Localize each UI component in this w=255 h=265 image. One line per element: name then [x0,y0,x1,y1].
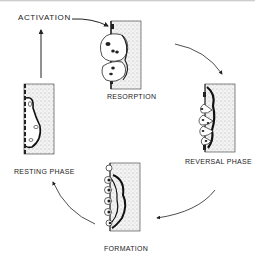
label-reversal-phase: REVERSAL PHASE [185,158,252,165]
label-formation: FORMATION [104,245,148,252]
formation-to-resting-arrow [53,182,95,224]
resorption-to-reversal-arrow [175,44,222,74]
reversal-block [199,84,235,152]
reversal-to-formation-arrow [157,190,215,218]
bone-remodeling-diagram [0,0,255,265]
resorption-block [100,21,141,89]
formation-block [105,163,141,231]
label-activation: ACTIVATION [18,13,71,22]
activation-to-resorption-arrow [72,19,108,26]
label-resting-phase: RESTING PHASE [14,168,75,175]
label-resorption: RESORPTION [107,93,156,100]
resting-block [24,84,54,154]
